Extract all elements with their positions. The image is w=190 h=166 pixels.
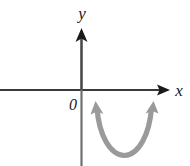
parabola-curve — [97, 108, 152, 156]
figure-canvas: y x 0 — [0, 0, 190, 166]
y-axis-label: y — [76, 4, 86, 23]
x-axis-label: x — [174, 81, 183, 100]
origin-label: 0 — [69, 96, 77, 113]
